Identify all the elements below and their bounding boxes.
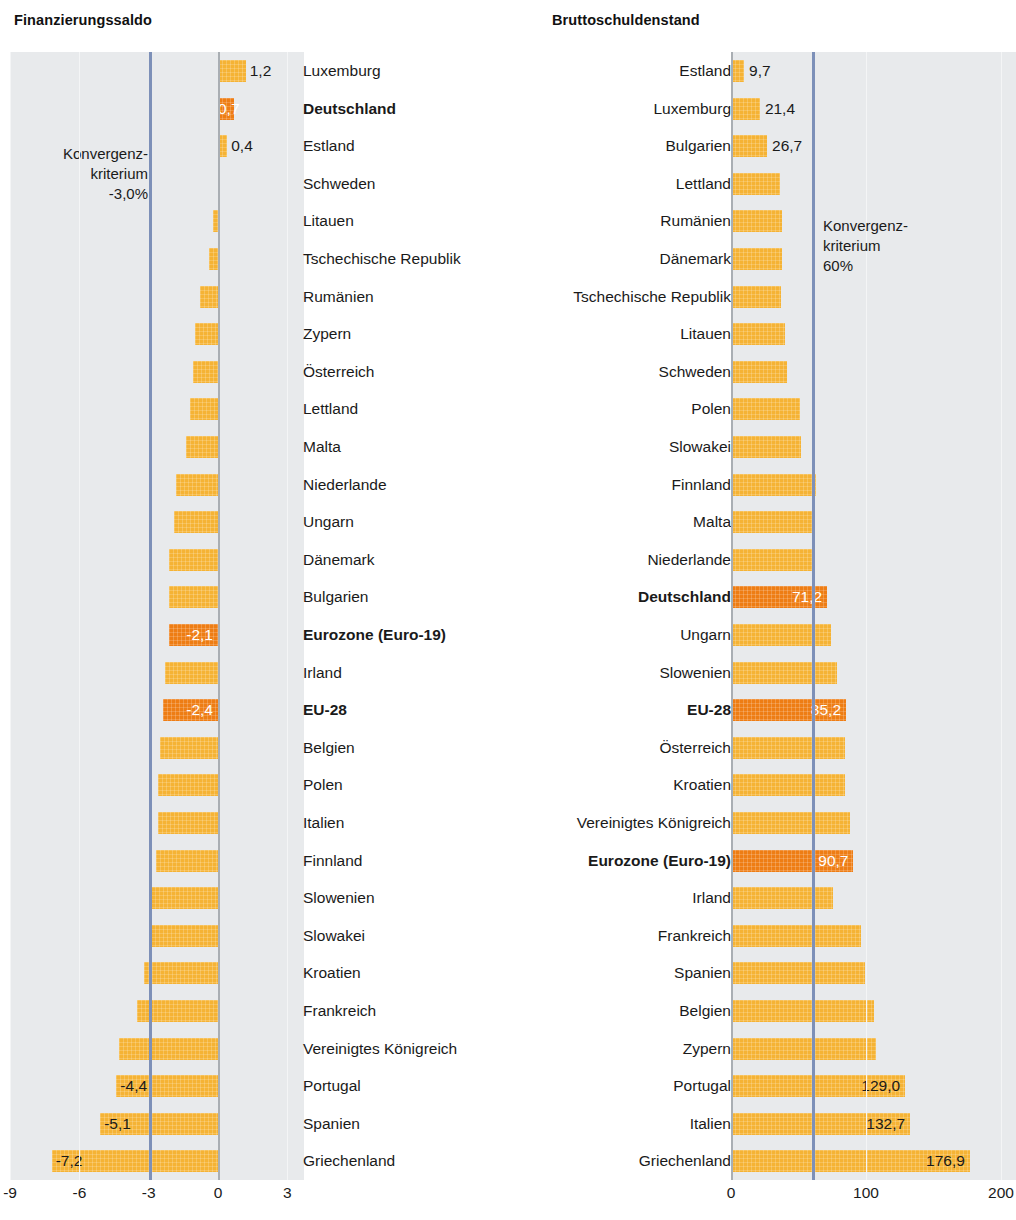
bar[interactable] — [731, 812, 850, 834]
bar[interactable] — [174, 511, 218, 533]
bar[interactable] — [186, 436, 218, 458]
chart-row[interactable]: Slowakei — [0, 917, 508, 955]
bar[interactable] — [160, 737, 218, 759]
chart-row[interactable]: Zypern — [508, 1030, 1016, 1068]
chart-row[interactable]: Belgien — [0, 729, 508, 767]
chart-row[interactable]: Österreich — [508, 729, 1016, 767]
chart-row[interactable]: 132,7Italien — [508, 1105, 1016, 1143]
bar[interactable] — [731, 361, 787, 383]
chart-row[interactable]: Lettland — [0, 390, 508, 428]
chart-row[interactable]: -4,4Portugal — [0, 1067, 508, 1105]
chart-row[interactable]: Ungarn — [0, 503, 508, 541]
bar[interactable] — [731, 323, 785, 345]
bar[interactable] — [731, 98, 760, 120]
chart-row[interactable]: Niederlande — [508, 541, 1016, 579]
chart-row[interactable]: -5,1Spanien — [0, 1105, 508, 1143]
chart-row[interactable]: -7,2Griechenland — [0, 1142, 508, 1180]
chart-row[interactable]: Finnland — [0, 842, 508, 880]
chart-row[interactable]: Spanien — [508, 954, 1016, 992]
chart-row[interactable]: Irland — [0, 654, 508, 692]
chart-row[interactable]: -2,1Eurozone (Euro-19) — [0, 616, 508, 654]
chart-row[interactable]: Slowenien — [508, 654, 1016, 692]
chart-row[interactable]: Malta — [0, 428, 508, 466]
chart-row[interactable]: Polen — [508, 390, 1016, 428]
chart-row[interactable]: 9,7Estland — [508, 52, 1016, 90]
bar[interactable] — [731, 774, 845, 796]
bar[interactable] — [165, 662, 218, 684]
chart-row[interactable]: Tschechische Republik — [508, 278, 1016, 316]
chart-row[interactable]: Frankreich — [0, 992, 508, 1030]
chart-row[interactable]: Litauen — [508, 315, 1016, 353]
chart-row[interactable]: Kroatien — [508, 766, 1016, 804]
bar[interactable] — [218, 60, 246, 82]
chart-row[interactable]: Slowenien — [0, 879, 508, 917]
chart-row[interactable]: Litauen — [0, 202, 508, 240]
chart-row[interactable]: Zypern — [0, 315, 508, 353]
chart-row[interactable]: Irland — [508, 879, 1016, 917]
chart-row[interactable]: 0,7Deutschland — [0, 90, 508, 128]
bar[interactable] — [731, 210, 782, 232]
chart-row[interactable]: Niederlande — [0, 466, 508, 504]
bar[interactable] — [200, 286, 218, 308]
bar[interactable] — [731, 474, 816, 496]
chart-row[interactable]: Ungarn — [508, 616, 1016, 654]
chart-row[interactable]: Polen — [0, 766, 508, 804]
bar[interactable] — [156, 850, 218, 872]
bar[interactable] — [731, 887, 833, 909]
bar[interactable] — [731, 925, 861, 947]
chart-row[interactable]: Kroatien — [0, 954, 508, 992]
chart-row[interactable]: Tschechische Republik — [0, 240, 508, 278]
chart-row[interactable]: 129,0Portugal — [508, 1067, 1016, 1105]
chart-row[interactable]: Dänemark — [0, 541, 508, 579]
bar[interactable] — [209, 248, 218, 270]
chart-row[interactable]: 176,9Griechenland — [508, 1142, 1016, 1180]
chart-row[interactable]: Italien — [0, 804, 508, 842]
bar[interactable] — [731, 511, 815, 533]
bar[interactable] — [193, 361, 218, 383]
chart-row[interactable]: Lettland — [508, 165, 1016, 203]
chart-row[interactable]: Frankreich — [508, 917, 1016, 955]
chart-row[interactable]: Schweden — [508, 353, 1016, 391]
chart-row[interactable]: Vereinigtes Königreich — [508, 804, 1016, 842]
bar[interactable] — [731, 436, 801, 458]
bar[interactable] — [731, 173, 780, 195]
bar[interactable] — [195, 323, 218, 345]
bar[interactable] — [731, 286, 781, 308]
chart-row[interactable]: Rumänien — [0, 278, 508, 316]
bar[interactable] — [158, 774, 218, 796]
chart-row[interactable]: 90,7Eurozone (Euro-19) — [508, 842, 1016, 880]
bar[interactable] — [731, 1000, 874, 1022]
bar[interactable] — [731, 1038, 876, 1060]
bar[interactable] — [731, 737, 845, 759]
chart-row[interactable]: -2,4EU-28 — [0, 691, 508, 729]
chart-row[interactable]: 85,2EU-28 — [508, 691, 1016, 729]
bar[interactable] — [151, 925, 218, 947]
chart-row[interactable]: Finnland — [508, 466, 1016, 504]
chart-row[interactable]: Belgien — [508, 992, 1016, 1030]
chart-row[interactable]: Bulgarien — [0, 578, 508, 616]
chart-row[interactable]: 26,7Bulgarien — [508, 127, 1016, 165]
bar[interactable] — [158, 812, 218, 834]
chart-row[interactable]: 21,4Luxemburg — [508, 90, 1016, 128]
bar[interactable] — [731, 398, 800, 420]
bar[interactable] — [731, 624, 831, 646]
chart-row[interactable]: 1,2Luxemburg — [0, 52, 508, 90]
bar[interactable] — [119, 1038, 218, 1060]
bar[interactable] — [731, 135, 767, 157]
chart-row[interactable]: Malta — [508, 503, 1016, 541]
chart-row[interactable]: Österreich — [0, 353, 508, 391]
bar[interactable] — [731, 248, 782, 270]
bar[interactable] — [731, 662, 837, 684]
chart-row[interactable]: 71,2Deutschland — [508, 578, 1016, 616]
bar[interactable] — [169, 549, 218, 571]
bar[interactable] — [169, 586, 218, 608]
bar[interactable] — [151, 887, 218, 909]
bar-texture — [144, 962, 218, 984]
bar[interactable] — [190, 398, 218, 420]
bar[interactable] — [731, 962, 865, 984]
bar[interactable] — [144, 962, 218, 984]
bar[interactable] — [176, 474, 218, 496]
bar[interactable] — [731, 549, 815, 571]
chart-row[interactable]: Slowakei — [508, 428, 1016, 466]
chart-row[interactable]: Vereinigtes Königreich — [0, 1030, 508, 1068]
